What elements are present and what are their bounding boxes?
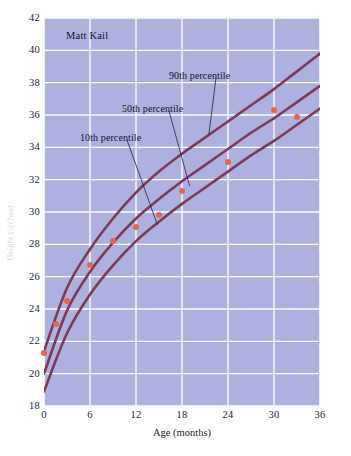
x-tick-label: 18 [177,409,188,421]
data-point [87,262,93,268]
y-tick-label: 22 [4,336,40,346]
x-tick-label: 36 [315,409,326,421]
y-tick-label: 36 [4,110,40,120]
y-tick-label: 24 [4,304,40,314]
data-point [179,188,185,194]
data-point [110,238,116,244]
data-point [133,224,139,230]
y-tick-label: 34 [4,142,40,152]
y-tick-label: 28 [4,239,40,249]
y-axis-ticks: 18202224262830323436384042 [0,18,40,406]
x-tick-label: 30 [269,409,280,421]
y-tick-label: 40 [4,45,40,55]
data-point [64,298,70,304]
annotation-10th-percentile: 10th percentile [80,132,141,143]
x-tick-label: 24 [223,409,234,421]
y-tick-label: 42 [4,13,40,23]
x-tick-label: 0 [41,409,46,421]
x-axis-ticks: 061218243036 [44,409,320,425]
y-tick-label: 26 [4,272,40,282]
annotation-90th-percentile: 90th percentile [169,70,230,81]
data-point [53,321,59,327]
data-point [294,114,300,120]
data-point [271,107,277,113]
subject-name-label: Matt Kail [66,30,108,41]
growth-chart: 18202224262830323436384042 Height (inche… [0,0,351,456]
data-point [156,212,162,218]
x-tick-label: 12 [131,409,142,421]
data-point [41,350,47,356]
data-point [225,159,231,165]
annotation-50th-percentile: 50th percentile [122,103,183,114]
y-tick-label: 20 [4,369,40,379]
y-tick-label: 32 [4,175,40,185]
y-tick-label: 38 [4,78,40,88]
y-tick-label: 18 [4,401,40,411]
plot-area: Matt Kail 90th percentile 50th percentil… [44,18,320,406]
y-tick-label: 30 [4,207,40,217]
x-tick-label: 6 [87,409,92,421]
x-axis-title: Age (months) [44,427,320,438]
